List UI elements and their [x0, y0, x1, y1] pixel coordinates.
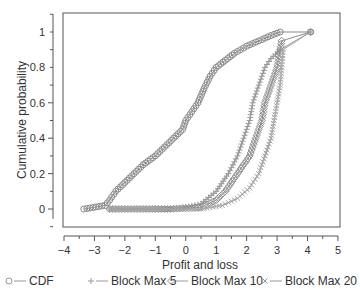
- x-tick-label: 4: [304, 244, 310, 256]
- y-tick-label: 0.4: [30, 132, 45, 144]
- y-tick-label: 1: [39, 26, 45, 38]
- x-axis: −4−3−2−1012345: [58, 236, 341, 256]
- x-tick-label: −1: [149, 244, 162, 256]
- cdf-chart: 00.20.40.60.81 −4−3−2−1012345 Cumulative…: [0, 0, 360, 297]
- x-axis-title: Profit and loss: [162, 258, 238, 272]
- x-tick-label: 3: [274, 244, 280, 256]
- y-tick-label: 0.6: [30, 97, 45, 109]
- y-axis: 00.20.40.60.81: [30, 14, 53, 226]
- x-tick-label: 0: [183, 244, 189, 256]
- legend-label: CDF: [29, 274, 54, 288]
- plot-frame: [63, 13, 340, 227]
- legend-label: Block Max 20: [285, 274, 357, 288]
- legend-label: Block Max 10: [191, 274, 263, 288]
- legend-item-block-max-5: Block Max 5: [88, 274, 177, 288]
- legend: CDFBlock Max 5Block Max 10Block Max 20: [6, 274, 357, 288]
- x-tick-label: −3: [88, 244, 101, 256]
- y-tick-label: 0: [39, 203, 45, 215]
- y-axis-title: Cumulative probability: [15, 61, 29, 179]
- x-tick-label: 2: [244, 244, 250, 256]
- legend-item-block-max-10: Block Max 10: [168, 274, 264, 288]
- x-tick-label: 5: [335, 244, 341, 256]
- x-tick-label: −4: [58, 244, 71, 256]
- y-tick-label: 0.2: [30, 168, 45, 180]
- x-tick-label: 1: [213, 244, 219, 256]
- legend-item-block-max-20: Block Max 20: [263, 274, 358, 288]
- x-tick-label: −2: [119, 244, 132, 256]
- legend-item-cdf: CDF: [6, 274, 54, 288]
- y-tick-label: 0.8: [30, 61, 45, 73]
